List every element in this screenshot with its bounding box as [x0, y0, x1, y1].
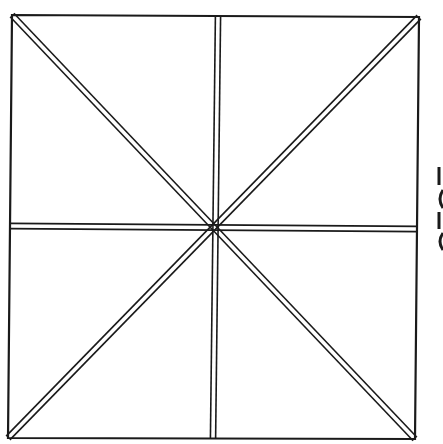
diagram-lines	[6, 13, 421, 441]
vertical-median-line	[210, 16, 220, 439]
edge-glyph-fragments	[439, 167, 443, 250]
square-diagram	[0, 0, 443, 444]
